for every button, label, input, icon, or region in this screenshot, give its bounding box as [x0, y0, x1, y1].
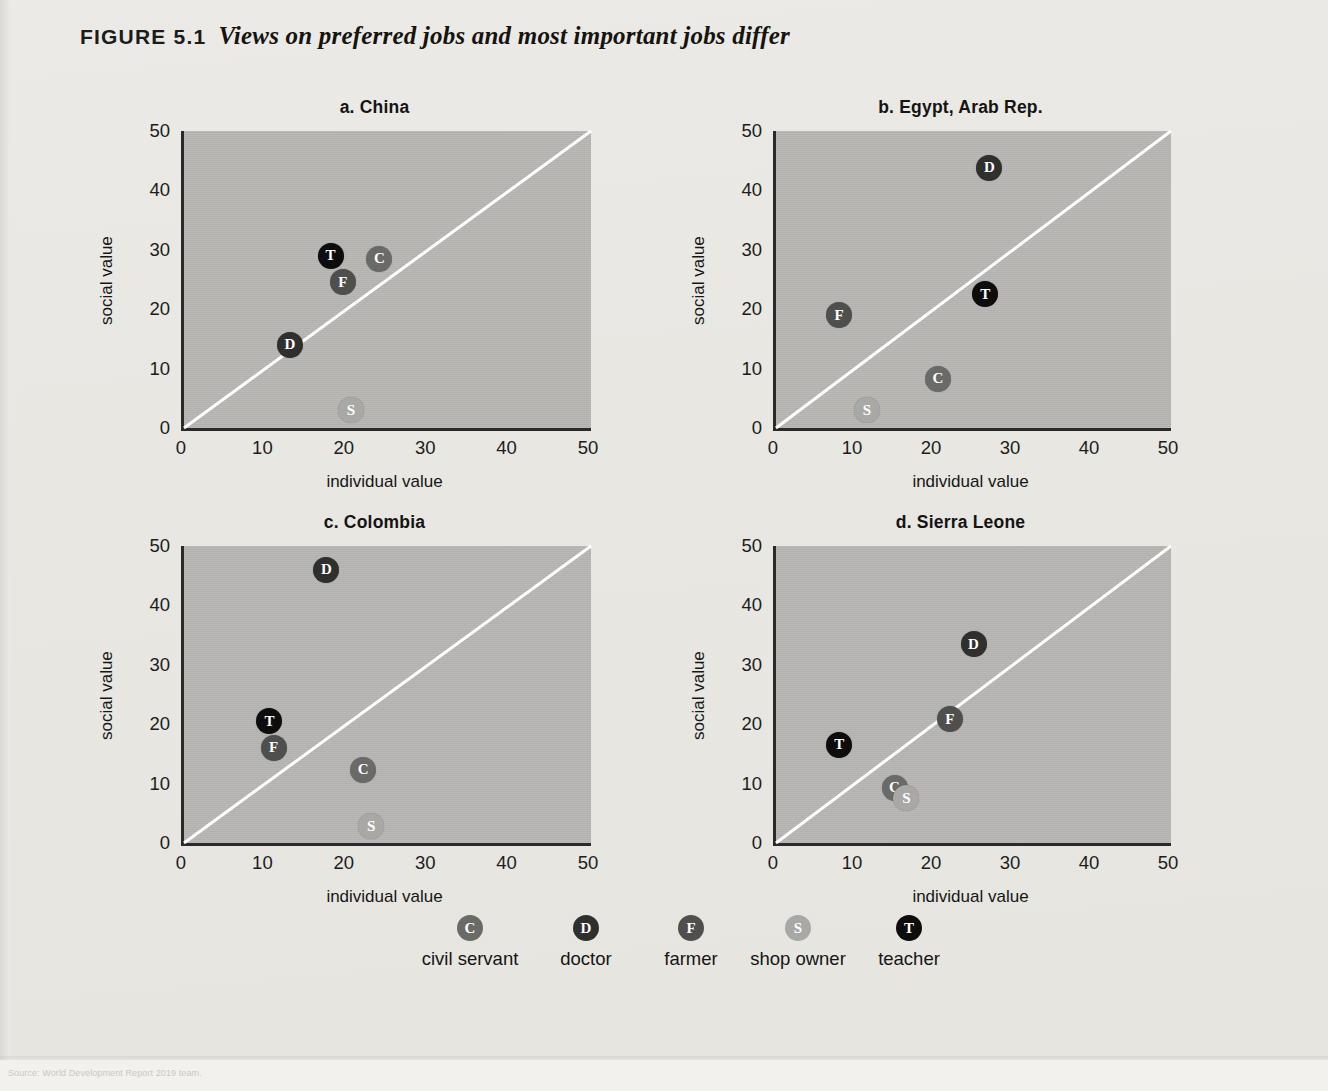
- diagonal-reference-line: [776, 546, 1171, 843]
- panel-3: c. ColombiaDTFCS0102030405001020304050so…: [61, 512, 608, 909]
- y-axis-tick: 10: [125, 773, 170, 795]
- x-axis-tick: 0: [753, 852, 793, 874]
- y-axis-label: social value: [689, 651, 709, 740]
- data-point-teacher: T: [318, 243, 344, 269]
- figure-title: FIGURE 5.1Views on preferred jobs and mo…: [80, 22, 790, 50]
- x-axis-label: individual value: [773, 887, 1168, 907]
- x-axis-tick: 10: [832, 437, 872, 459]
- data-point-civil-servant: C: [366, 246, 392, 272]
- legend-label: teacher: [854, 949, 964, 970]
- y-axis-tick: 30: [717, 239, 762, 261]
- x-axis-tick: 40: [1069, 852, 1109, 874]
- x-axis-tick: 30: [990, 437, 1030, 459]
- x-axis-tick: 50: [568, 852, 608, 874]
- legend-label: doctor: [531, 949, 641, 970]
- legend-item-civil-servant[interactable]: Ccivil servant: [415, 915, 525, 970]
- y-axis-tick: 30: [125, 239, 170, 261]
- data-point-civil-servant: C: [925, 366, 951, 392]
- panel-title: c. Colombia: [171, 512, 578, 533]
- y-axis-tick: 20: [125, 713, 170, 735]
- y-axis-label: social value: [97, 651, 117, 740]
- y-axis-tick: 40: [125, 594, 170, 616]
- x-axis-tick: 40: [1069, 437, 1109, 459]
- y-axis-tick: 10: [125, 358, 170, 380]
- legend-marker-s-icon: S: [785, 915, 811, 941]
- plot-area: DTFCS: [773, 131, 1171, 431]
- y-axis-label: social value: [97, 236, 117, 325]
- data-point-doctor: D: [976, 155, 1002, 181]
- legend-item-teacher[interactable]: Tteacher: [854, 915, 964, 970]
- x-axis-tick: 20: [911, 437, 951, 459]
- x-axis-tick: 30: [405, 437, 445, 459]
- diagonal-reference-line: [184, 131, 591, 428]
- data-point-doctor: D: [961, 631, 987, 657]
- x-axis-tick: 0: [753, 437, 793, 459]
- y-axis-tick: 50: [717, 535, 762, 557]
- x-axis-tick: 20: [324, 852, 364, 874]
- data-point-civil-servant: C: [350, 757, 376, 783]
- y-axis-tick: 0: [125, 832, 170, 854]
- x-axis-label: individual value: [181, 887, 588, 907]
- legend-item-farmer[interactable]: Ffarmer: [636, 915, 746, 970]
- y-axis-tick: 20: [125, 298, 170, 320]
- y-axis-tick: 50: [125, 535, 170, 557]
- x-axis-tick: 10: [242, 852, 282, 874]
- x-axis-tick: 50: [1148, 852, 1188, 874]
- y-axis-tick: 30: [717, 654, 762, 676]
- x-axis-tick: 0: [161, 852, 201, 874]
- figure-caption: Views on preferred jobs and most importa…: [218, 22, 790, 49]
- legend-marker-c-icon: C: [457, 915, 483, 941]
- y-axis-label: social value: [689, 236, 709, 325]
- legend-item-shop-owner[interactable]: Sshop owner: [743, 915, 853, 970]
- panel-title: b. Egypt, Arab Rep.: [763, 97, 1158, 118]
- y-axis-tick: 10: [717, 773, 762, 795]
- legend-marker-d-icon: D: [573, 915, 599, 941]
- x-axis-tick: 10: [242, 437, 282, 459]
- panel-title: a. China: [171, 97, 578, 118]
- legend-label: civil servant: [415, 949, 525, 970]
- x-axis-tick: 30: [990, 852, 1030, 874]
- page-edge-shadow: [0, 0, 10, 1060]
- plot-area: DTFCS: [181, 546, 591, 846]
- x-axis-tick: 40: [487, 437, 527, 459]
- x-axis-tick: 30: [405, 852, 445, 874]
- x-axis-tick: 50: [568, 437, 608, 459]
- x-axis-tick: 40: [487, 852, 527, 874]
- y-axis-tick: 40: [125, 179, 170, 201]
- plot-area: TCFDS: [181, 131, 591, 431]
- panel-title: d. Sierra Leone: [763, 512, 1158, 533]
- data-point-teacher: T: [826, 732, 852, 758]
- y-axis-tick: 0: [717, 832, 762, 854]
- y-axis-tick: 40: [717, 179, 762, 201]
- data-point-doctor: D: [277, 332, 303, 358]
- x-axis-tick: 20: [911, 852, 951, 874]
- legend-item-doctor[interactable]: Ddoctor: [531, 915, 641, 970]
- x-axis-label: individual value: [181, 472, 588, 492]
- y-axis-tick: 10: [717, 358, 762, 380]
- data-point-shop-owner: S: [338, 397, 364, 423]
- y-axis-tick: 0: [717, 417, 762, 439]
- legend-label: shop owner: [743, 949, 853, 970]
- diagonal-reference-line: [184, 546, 591, 843]
- x-axis-label: individual value: [773, 472, 1168, 492]
- y-axis-tick: 0: [125, 417, 170, 439]
- x-axis-tick: 50: [1148, 437, 1188, 459]
- legend-label: farmer: [636, 949, 746, 970]
- legend-marker-f-icon: F: [678, 915, 704, 941]
- source-note: Source: World Development Report 2019 te…: [8, 1068, 202, 1078]
- figure-number: FIGURE 5.1: [80, 25, 206, 48]
- panel-1: a. ChinaTCFDS0102030405001020304050socia…: [61, 97, 608, 494]
- y-axis-tick: 50: [717, 120, 762, 142]
- y-axis-tick: 20: [717, 298, 762, 320]
- x-axis-tick: 10: [832, 852, 872, 874]
- legend-marker-t-icon: T: [896, 915, 922, 941]
- panel-2: b. Egypt, Arab Rep.DTFCS0102030405001020…: [653, 97, 1188, 494]
- x-axis-tick: 20: [324, 437, 364, 459]
- data-point-farmer: F: [261, 735, 287, 761]
- panel-4: d. Sierra LeoneDFTCS01020304050010203040…: [653, 512, 1188, 909]
- y-axis-tick: 20: [717, 713, 762, 735]
- plot-area: DFTCS: [773, 546, 1171, 846]
- diagonal-reference-line: [776, 131, 1171, 428]
- data-point-shop-owner: S: [854, 397, 880, 423]
- y-axis-tick: 50: [125, 120, 170, 142]
